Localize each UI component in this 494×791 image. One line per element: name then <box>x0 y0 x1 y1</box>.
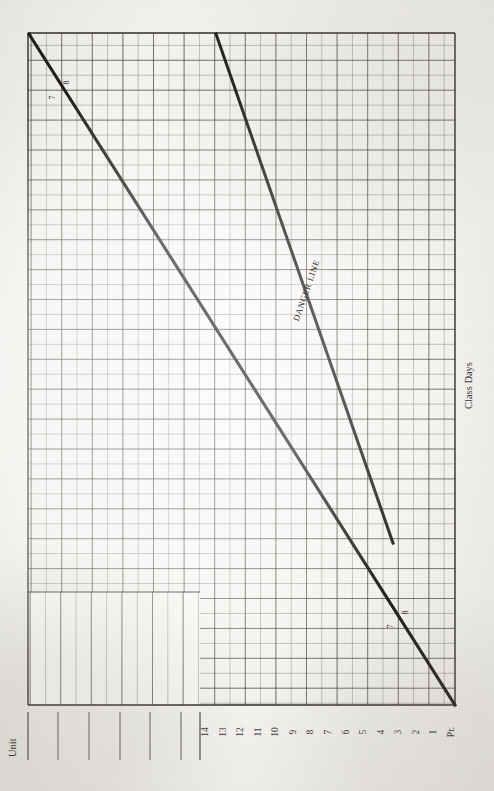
x-tick-label: 12 <box>235 722 247 742</box>
mark-label-8-lower: 8 <box>401 611 410 615</box>
scan-smudge-overlay <box>0 0 494 791</box>
x-tick-label: 1 <box>428 722 440 742</box>
x-tick-label: 7 <box>323 722 335 742</box>
x-tick-label: 6 <box>341 722 353 742</box>
y-axis-title: Unit <box>7 713 21 757</box>
x-tick-label: 4 <box>376 722 388 742</box>
x-tick-label: 10 <box>270 722 282 742</box>
x-tick-label: 5 <box>358 722 370 742</box>
mark-label-7-lower: 7 <box>386 625 395 629</box>
x-tick-label: 9 <box>288 722 300 742</box>
x-axis-title: Class Days <box>463 349 477 409</box>
x-tick-label: 8 <box>305 722 317 742</box>
mark-label-7-upper: 7 <box>48 96 57 100</box>
x-tick-label: 14 <box>200 722 212 742</box>
x-tick-label: 13 <box>218 722 230 742</box>
x-tick-label: 11 <box>253 722 265 742</box>
x-tick-label: Pr. <box>446 722 458 742</box>
x-tick-label: 2 <box>411 722 423 742</box>
mark-label-8-upper: 8 <box>62 81 71 85</box>
x-tick-label: 3 <box>393 722 405 742</box>
